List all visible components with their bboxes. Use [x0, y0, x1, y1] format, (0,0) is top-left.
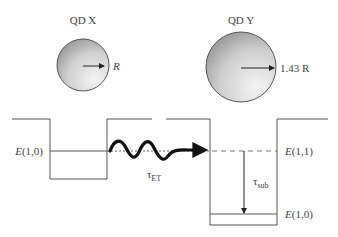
tau-sub-label: τsub — [253, 175, 269, 190]
right-e11-label: E(1,1) — [284, 145, 313, 158]
potential-profile — [12, 119, 328, 225]
right-e10-label: E(1,0) — [284, 208, 313, 221]
qd-energy-transfer-diagram: QD X R QD Y 1.43 R E(1,0) E(1,1) E(1,0) … — [0, 0, 338, 237]
qd-y: QD Y 1.43 R — [206, 14, 310, 102]
left-e10-label: E(1,0) — [14, 145, 43, 158]
tau-et-label: τET — [147, 168, 161, 183]
energy-transfer-arrow: τET — [110, 141, 202, 183]
qd-x-radius-label: R — [112, 60, 120, 72]
qd-x: QD X R — [57, 14, 120, 91]
qd-y-sphere — [206, 32, 276, 102]
sublevel-relaxation-arrow: τsub — [244, 151, 269, 213]
qd-x-sphere — [57, 39, 109, 91]
qd-y-radius-label: 1.43 R — [280, 62, 310, 74]
qd-x-title: QD X — [70, 14, 97, 26]
qd-y-title: QD Y — [228, 14, 254, 26]
